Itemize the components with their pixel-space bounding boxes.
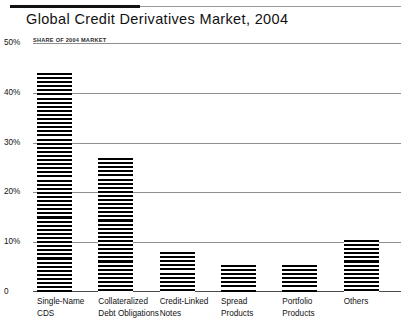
x-axis-tick-label: SpreadProducts	[221, 296, 253, 319]
y-axis-tick-label: 20%	[4, 187, 32, 196]
bar	[282, 265, 317, 292]
bar	[160, 252, 195, 292]
x-axis-tick-label: Single-NameCDS	[37, 296, 84, 319]
y-axis-tick-label: 10%	[4, 237, 32, 246]
chart-figure: Global Credit Derivatives Market, 2004 S…	[0, 0, 411, 333]
bar	[37, 73, 72, 292]
bar	[98, 158, 133, 292]
y-axis-tick-label: 0	[4, 287, 32, 296]
x-axis-labels: Single-NameCDSCollateralizedDebt Obligat…	[33, 296, 401, 333]
header-rule-thin	[140, 6, 401, 7]
chart-title: Global Credit Derivatives Market, 2004	[26, 11, 288, 27]
y-axis-tick-label: 30%	[4, 138, 32, 147]
x-axis-tick-label: Others	[344, 296, 369, 308]
bar-series	[33, 43, 401, 292]
bar	[221, 265, 256, 292]
header-rule-accent	[10, 5, 140, 8]
x-axis-tick-label: Credit-LinkedNotes	[160, 296, 209, 319]
y-axis-tick-label: 50%	[4, 38, 32, 47]
x-axis-tick-label: PortfolioProducts	[282, 296, 314, 319]
bar	[344, 240, 379, 292]
y-axis-tick-label: 40%	[4, 88, 32, 97]
x-axis-tick-label: CollateralizedDebt Obligations	[98, 296, 159, 319]
